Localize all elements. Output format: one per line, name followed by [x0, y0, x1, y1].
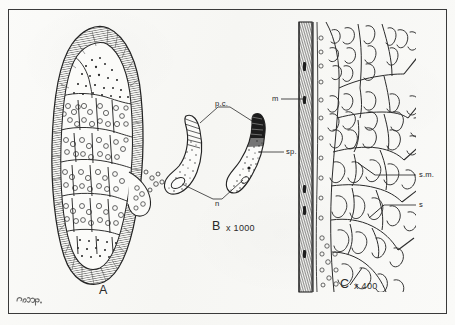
label-sm: s.m. — [419, 170, 434, 179]
label-pc: p.c. — [215, 99, 228, 108]
figure-a-caption-letter: A — [99, 283, 108, 297]
figure-b-caption-letter: B — [212, 219, 221, 233]
label-s: s — [419, 200, 423, 209]
figure-b-magnification: x 1000 — [226, 223, 255, 233]
label-sp: sp. — [286, 147, 297, 156]
artist-signature — [14, 292, 44, 308]
label-n: n — [215, 199, 219, 208]
figure-c-magnification: x 400 — [354, 281, 378, 291]
illustration-plate: p.c. sp. n m s.m. s A B x 1000 C x 400 — [0, 0, 455, 325]
label-m: m — [272, 94, 279, 103]
plate-border — [8, 9, 447, 314]
figure-c-caption-letter: C — [340, 277, 350, 291]
